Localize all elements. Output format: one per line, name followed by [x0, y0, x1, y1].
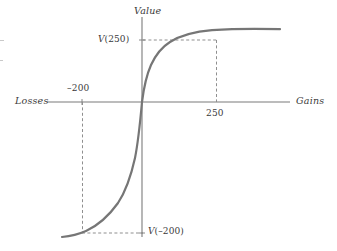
x-tick-label-neg200: –200: [67, 83, 89, 93]
x-axis-left-label: Losses: [15, 95, 48, 106]
page-edge-mark-left: [0, 40, 4, 41]
value-at-250-label: V(250): [98, 34, 129, 44]
value-at-250-argument: (250): [105, 34, 130, 44]
x-axis-right-label: Gains: [296, 95, 324, 106]
value-function-curve: [62, 29, 280, 237]
value-function-plot: [0, 0, 337, 251]
y-axis-title: Value: [134, 5, 161, 16]
value-at-neg200-label: V(–200): [148, 226, 184, 236]
value-at-250-symbol: V: [98, 34, 105, 44]
x-tick-label-250: 250: [206, 108, 224, 118]
page-edge-mark-left-lower: [0, 60, 3, 61]
value-function-figure: Value Losses Gains V(250) V(–200) –200 2…: [0, 0, 337, 251]
value-at-neg200-argument: (–200): [155, 226, 184, 236]
value-at-neg200-symbol: V: [148, 226, 155, 236]
